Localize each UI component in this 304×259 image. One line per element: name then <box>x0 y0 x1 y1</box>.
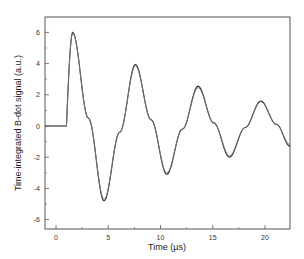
y-axis-label: Time-integrated B-dot signal (a.u.) <box>13 55 23 191</box>
x-axis-label: Time (µs) <box>148 242 186 252</box>
plot-curves <box>45 32 290 200</box>
y-tick-label: 2 <box>36 91 40 98</box>
x-tick-label: 15 <box>209 234 217 241</box>
y-tick-label: -4 <box>34 185 40 192</box>
series-line-1 <box>45 32 290 200</box>
plot-frame <box>45 17 290 229</box>
x-axis-ticks: 05101520 <box>54 225 269 241</box>
y-tick-label: 6 <box>36 29 40 36</box>
chart: -6-4-20246 05101520 Time (µs) Time-integ… <box>0 0 304 259</box>
x-tick-label: 0 <box>54 234 58 241</box>
y-tick-label: -6 <box>34 216 40 223</box>
x-tick-label: 10 <box>157 234 165 241</box>
x-tick-label: 20 <box>261 234 269 241</box>
y-tick-label: 0 <box>36 123 40 130</box>
x-tick-label: 5 <box>106 234 110 241</box>
y-tick-label: -2 <box>34 154 40 161</box>
y-tick-label: 4 <box>36 60 40 67</box>
